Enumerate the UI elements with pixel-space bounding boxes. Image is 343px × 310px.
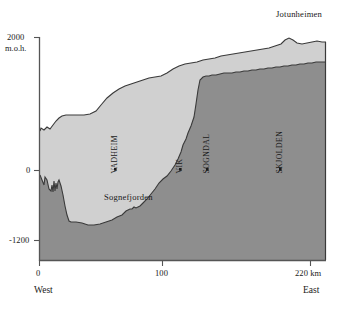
y-axis-label-2000: 2000 — [7, 33, 24, 42]
peak-label-jotunheimen: Jotunheimen — [276, 10, 322, 19]
place-label-skjolden: SKJOLDEN — [276, 131, 284, 174]
x-axis-label-0: 0 — [36, 269, 40, 278]
y-axis-unit-label: m.o.h. — [5, 44, 27, 53]
y-axis-label-minus1200: -1200 — [9, 236, 29, 245]
y-axis-label-0: 0 — [26, 166, 30, 175]
profile-svg — [0, 0, 343, 310]
cross-section-figure: 2000 m.o.h. 0 -1200 0 100 220 km West Ea… — [0, 0, 343, 310]
water-label-sognefjorden: Sognefjorden — [104, 193, 153, 202]
direction-label-west: West — [34, 286, 53, 296]
place-label-vadheim: VADHEIM — [111, 135, 119, 174]
x-axis-label-220km: 220 km — [295, 269, 321, 278]
place-label-vik: VIK — [176, 158, 184, 173]
direction-label-east: East — [303, 286, 319, 296]
place-label-sogndal: SOGNDAL — [203, 133, 211, 173]
x-axis-label-100: 100 — [155, 269, 168, 278]
